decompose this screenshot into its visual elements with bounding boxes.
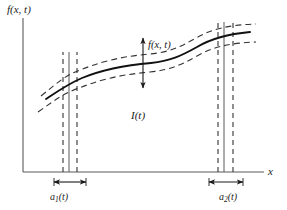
strip-right-width-label: a2(t) — [219, 192, 237, 203]
strip-right-width-arg: (t) — [228, 191, 237, 202]
figure-container: f(x, t) x f(x, t) I(t) a1(t) a2(t) — [0, 0, 287, 210]
strip-left-width-arg: (t) — [59, 191, 68, 202]
waveform-label: f(x, t) — [148, 40, 171, 51]
envelope-lower-curve — [38, 42, 256, 112]
y-axis-label: f(x, t) — [7, 4, 31, 15]
strip-left-width-label: a1(t) — [50, 192, 68, 203]
strip-left-group — [63, 52, 77, 172]
figure-canvas — [0, 0, 287, 210]
strip-right-group — [218, 22, 233, 172]
region-label: I(t) — [131, 110, 145, 121]
x-axis-label: x — [268, 166, 273, 177]
